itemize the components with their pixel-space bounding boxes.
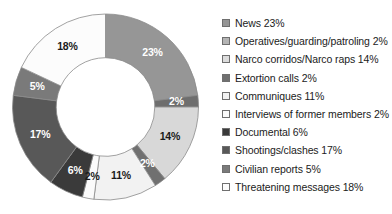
donut-slice-label: 17% [30, 128, 51, 140]
legend-item[interactable]: News 23% [222, 14, 392, 32]
donut-chart-svg: 23%2%14%2%11%2%6%17%5%18% [0, 0, 215, 214]
legend-item-label: Documental 6% [235, 126, 308, 138]
legend-item[interactable]: Shootings/clashes 17% [222, 141, 392, 159]
legend-color-swatch-icon [222, 55, 230, 63]
legend-item-label: Civilian reports 5% [235, 163, 321, 175]
legend-item-label: News 23% [235, 17, 284, 29]
donut-slice-label: 23% [142, 46, 163, 58]
donut-slice-label: 14% [160, 130, 181, 142]
legend-item-label: Extortion calls 2% [235, 72, 317, 84]
legend-item[interactable]: Civilian reports 5% [222, 160, 392, 178]
legend-item[interactable]: Documental 6% [222, 123, 392, 141]
legend-color-swatch-icon [222, 19, 230, 27]
legend-item-label: Interviews of former members 2% [235, 108, 389, 120]
legend-item-label: Communiques 11% [235, 90, 324, 102]
donut-slice-label: 2% [140, 157, 156, 169]
donut-slice-label: 18% [57, 40, 78, 52]
legend-item-label: Threatening messages 18% [235, 181, 363, 193]
legend-color-swatch-icon [222, 146, 230, 154]
legend-item[interactable]: Threatening messages 18% [222, 178, 392, 196]
donut-slice-label: 6% [68, 164, 84, 176]
legend-color-swatch-icon [222, 92, 230, 100]
chart-legend: News 23%Operatives/guarding/patroling 2%… [215, 0, 392, 196]
donut-slice-label: 2% [169, 95, 185, 107]
donut-chart-figure: 23%2%14%2%11%2%6%17%5%18% News 23%Operat… [0, 0, 392, 214]
legend-item[interactable]: Interviews of former members 2% [222, 105, 392, 123]
legend-item[interactable]: Communiques 11% [222, 87, 392, 105]
legend-color-swatch-icon [222, 110, 230, 118]
legend-color-swatch-icon [222, 183, 230, 191]
donut-slice-label: 11% [111, 169, 132, 181]
legend-color-swatch-icon [222, 128, 230, 136]
legend-item[interactable]: Operatives/guarding/patroling 2% [222, 32, 392, 50]
donut-slice-label: 5% [30, 80, 46, 92]
donut-chart-plot-area: 23%2%14%2%11%2%6%17%5%18% [0, 0, 215, 214]
legend-color-swatch-icon [222, 74, 230, 82]
legend-item-label: Shootings/clashes 17% [235, 144, 342, 156]
legend-item[interactable]: Extortion calls 2% [222, 69, 392, 87]
legend-item-label: Operatives/guarding/patroling 2% [235, 35, 388, 47]
legend-color-swatch-icon [222, 37, 230, 45]
legend-color-swatch-icon [222, 165, 230, 173]
legend-item[interactable]: Narco corridos/Narco raps 14% [222, 50, 392, 68]
donut-slice-label: 2% [85, 170, 101, 182]
legend-item-label: Narco corridos/Narco raps 14% [235, 53, 379, 65]
